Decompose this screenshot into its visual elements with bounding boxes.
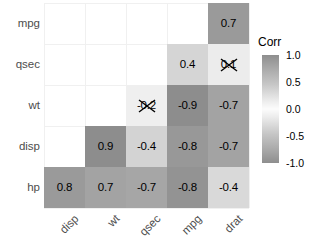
legend-tick-label: -0.5 — [286, 131, 304, 142]
x-axis-tick-label: wt — [105, 213, 121, 229]
heatmap-cell[interactable]: -0.7 — [208, 126, 249, 167]
legend-tick-labels: 1.00.50.0-0.5-1.0 — [279, 55, 317, 163]
cell-value: -0.7 — [137, 182, 156, 194]
legend-tick-mark — [279, 163, 283, 164]
legend-colorbar — [262, 55, 279, 163]
heatmap-cell[interactable]: -0.8 — [167, 167, 208, 208]
heatmap-cell[interactable]: -0.2 — [126, 85, 167, 126]
heatmap-cell[interactable]: -0.4 — [126, 126, 167, 167]
x-axis-tick-label: qsec — [137, 213, 162, 238]
y-axis-tick-label: mpg — [0, 18, 40, 30]
cell-value: -0.4 — [219, 182, 238, 194]
cell-value: 0.1 — [221, 59, 236, 71]
heatmap-cell[interactable]: -0.4 — [208, 167, 249, 208]
heatmap-cell[interactable]: 0.4 — [167, 44, 208, 85]
x-axis-tick-label: disp — [58, 213, 81, 236]
legend-tick-mark — [279, 109, 283, 110]
x-axis-labels: dispwtqsecmpgdrat — [44, 208, 249, 243]
legend-tick-label: 1.0 — [286, 50, 301, 61]
cell-value: 0.8 — [57, 182, 72, 194]
legend-title: Corr — [258, 36, 281, 48]
heatmap-cell[interactable]: -0.8 — [167, 126, 208, 167]
heatmap-cell[interactable]: -0.9 — [167, 85, 208, 126]
legend-tick-mark — [279, 82, 283, 83]
cell-value: -0.2 — [137, 100, 156, 112]
cell-value: 0.7 — [98, 182, 113, 194]
cell-value: 0.9 — [98, 141, 113, 153]
heatmap-cell[interactable]: 0.1 — [208, 44, 249, 85]
gridline-vertical — [249, 3, 250, 208]
y-axis-tick-label: disp — [0, 141, 40, 153]
heatmap-cell[interactable]: 0.9 — [85, 126, 126, 167]
y-axis-tick-label: wt — [0, 100, 40, 112]
heatmap-cell[interactable]: 0.7 — [208, 3, 249, 44]
cell-value: -0.7 — [219, 100, 238, 112]
x-axis-tick-label: drat — [222, 213, 244, 235]
cell-value: -0.4 — [137, 141, 156, 153]
legend-tick-label: 0.0 — [286, 104, 301, 115]
heatmap-cell[interactable]: -0.7 — [126, 167, 167, 208]
heatmap-cell[interactable]: -0.7 — [208, 85, 249, 126]
cell-value: -0.7 — [219, 141, 238, 153]
legend-tick-label: 0.5 — [286, 77, 301, 88]
legend-tick-mark — [279, 55, 283, 56]
heatmap-cell[interactable]: 0.7 — [85, 167, 126, 208]
x-axis-tick-label: mpg — [180, 213, 204, 237]
legend: Corr 1.00.50.0-0.5-1.0 — [258, 36, 317, 171]
cell-value: 0.7 — [221, 18, 236, 30]
legend-tick-label: -1.0 — [286, 158, 304, 169]
legend-tick-mark — [279, 136, 283, 137]
y-axis-labels: mpgqsecwtdisphp — [0, 3, 40, 208]
heatmap-cell[interactable]: 0.8 — [44, 167, 85, 208]
cell-value: -0.8 — [178, 141, 197, 153]
correlation-heatmap-plot: mpgqsecwtdisphp 0.70.40.1-0.2-0.9-0.70.9… — [0, 0, 317, 243]
cell-value: -0.8 — [178, 182, 197, 194]
heatmap-panel: 0.70.40.1-0.2-0.9-0.70.9-0.4-0.8-0.70.80… — [44, 3, 249, 208]
cell-value: 0.4 — [180, 59, 195, 71]
y-axis-tick-label: hp — [0, 182, 40, 194]
cell-value: -0.9 — [178, 100, 197, 112]
y-axis-tick-label: qsec — [0, 59, 40, 71]
